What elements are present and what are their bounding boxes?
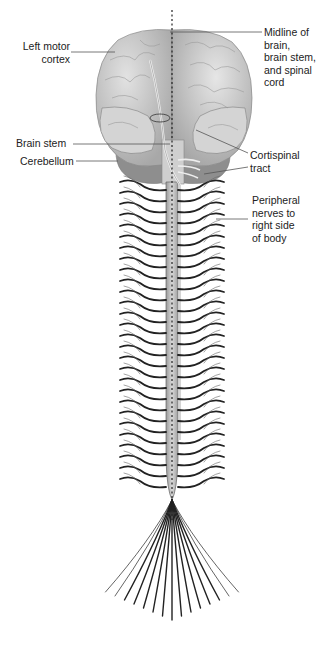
nerve	[178, 367, 224, 377]
nerve	[120, 301, 166, 311]
nerve	[120, 411, 166, 421]
nerve	[120, 213, 166, 223]
nerve	[120, 422, 166, 432]
nerve	[120, 400, 166, 410]
nerve	[178, 279, 224, 289]
nerve	[120, 367, 166, 377]
label-left-motor-cortex: Left motor cortex	[8, 40, 70, 65]
label-brain-stem: Brain stem	[16, 137, 66, 150]
label-midline: Midline of brain, brain stem, and spinal…	[264, 26, 334, 89]
nerve	[178, 433, 224, 443]
nerve	[178, 389, 224, 399]
label-cerebellum: Cerebellum	[20, 155, 74, 168]
nerve	[172, 500, 239, 592]
nerve	[178, 345, 224, 355]
nerve	[178, 477, 224, 487]
nerve	[120, 444, 166, 454]
label-peripheral-nerves: Peripheral nerves to right side of body	[252, 194, 300, 244]
nerve	[120, 334, 166, 344]
nerve	[120, 323, 166, 333]
nerve	[120, 235, 166, 245]
nerve	[120, 466, 166, 476]
nervous-system-diagram	[0, 0, 335, 654]
nerve	[178, 356, 224, 366]
nerve	[178, 312, 224, 322]
nerve	[178, 455, 224, 465]
nerve	[120, 246, 166, 256]
nerve	[178, 257, 224, 267]
nerve	[178, 422, 224, 432]
nerve	[120, 378, 166, 388]
nerve	[178, 411, 224, 421]
nerve	[120, 202, 166, 212]
nerve	[120, 477, 166, 487]
nerve	[120, 433, 166, 443]
nerve	[178, 213, 224, 223]
nerve	[120, 224, 166, 234]
nerve	[178, 268, 224, 278]
label-cortispinal-tract: Cortispinal tract	[250, 149, 300, 174]
nerve	[178, 400, 224, 410]
nerve	[178, 191, 224, 201]
nerve	[106, 500, 173, 592]
nerve	[178, 246, 224, 256]
nerve	[120, 345, 166, 355]
nerve	[120, 279, 166, 289]
nerve	[178, 224, 224, 234]
nerve	[178, 378, 224, 388]
nerve	[120, 389, 166, 399]
nerve	[120, 312, 166, 322]
nerve	[120, 290, 166, 300]
nerve	[178, 202, 224, 212]
nerve	[178, 235, 224, 245]
nerve	[178, 334, 224, 344]
nerve	[178, 290, 224, 300]
nerve	[120, 455, 166, 465]
nerve	[120, 356, 166, 366]
nerve	[120, 257, 166, 267]
nerve	[178, 323, 224, 333]
nerve	[178, 444, 224, 454]
nerve	[178, 301, 224, 311]
nerve	[120, 268, 166, 278]
nerve	[178, 466, 224, 476]
nerve	[120, 191, 166, 201]
